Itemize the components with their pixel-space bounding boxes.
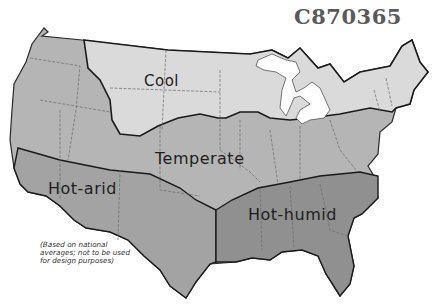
disclaimer-note: (Based on national averages; not to be u… <box>40 241 130 266</box>
region-label-hot-arid: Hot-arid <box>48 179 117 198</box>
region-label-cool: Cool <box>144 72 179 90</box>
region-label-hot-humid: Hot-humid <box>248 205 337 224</box>
region-label-temperate: Temperate <box>155 149 244 168</box>
